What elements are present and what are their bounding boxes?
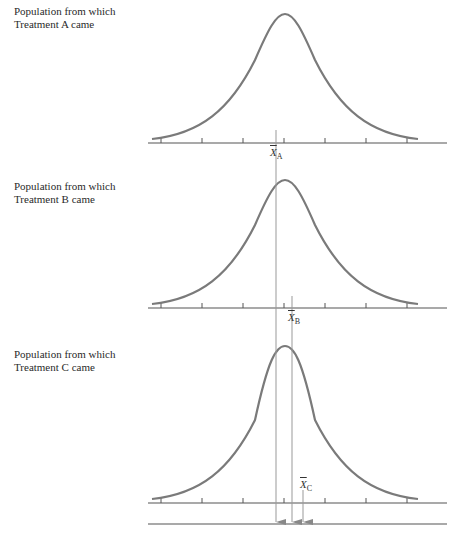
- mean-symbol: X: [288, 311, 295, 323]
- panel-a: [148, 14, 447, 143]
- normal-curve: [152, 346, 418, 499]
- normal-curve: [152, 180, 418, 304]
- distribution-diagram: [0, 0, 463, 536]
- panel-b: [148, 180, 447, 308]
- mean-symbol: X: [300, 478, 307, 490]
- mean-b-label: XB: [288, 311, 300, 326]
- panel-c: [148, 346, 447, 503]
- mean-a-label: XA: [270, 146, 283, 161]
- mean-subscript: A: [277, 152, 283, 161]
- mean-subscript: C: [307, 484, 312, 493]
- mean-subscript: B: [295, 317, 300, 326]
- mean-symbol: X: [270, 146, 277, 158]
- normal-curve: [152, 14, 418, 139]
- mean-c-label: XC: [300, 478, 312, 493]
